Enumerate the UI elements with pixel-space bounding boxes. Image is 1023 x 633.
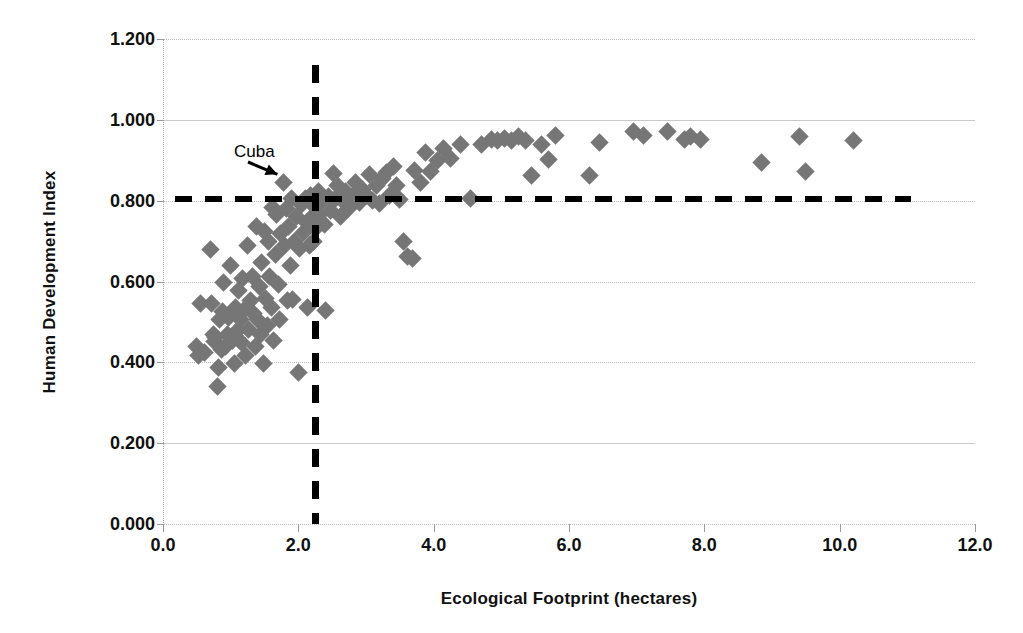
x-tick-label: 6.0 [529,535,609,556]
x-tick-mark [569,524,570,532]
x-tick-label: 8.0 [664,535,744,556]
gridline-y [163,39,975,41]
scatter-chart: Human Development Index Ecological Footp… [0,0,1023,633]
data-point [797,162,815,180]
data-point [580,166,598,184]
y-tick-mark [157,120,164,121]
y-tick-label: 0.600 [69,271,155,292]
x-tick-mark [704,524,705,532]
data-point [238,236,256,254]
data-point [523,166,541,184]
x-tick-mark [840,524,841,532]
data-point [790,128,808,146]
x-tick-label: 12.0 [935,535,1015,556]
x-tick-label: 4.0 [394,535,474,556]
data-point [546,126,564,144]
x-tick-mark [434,524,435,532]
x-tick-mark [298,524,299,532]
data-point [281,256,299,274]
y-tick-mark [157,201,164,202]
x-tick-mark [163,524,164,532]
y-tick-mark [157,282,164,283]
data-point [208,377,226,395]
y-tick-mark [157,443,164,444]
threshold-line-hdi-threshold [175,196,911,202]
data-point [452,135,470,153]
data-point [658,123,676,141]
data-point [590,133,608,151]
y-tick-label: 0.400 [69,352,155,373]
data-point [209,358,227,376]
y-tick-label: 0.800 [69,190,155,211]
x-tick-label: 2.0 [258,535,338,556]
data-point [254,354,272,372]
y-tick-label: 1.200 [69,29,155,50]
threshold-line-footprint-threshold [312,65,319,524]
data-point [539,150,557,168]
x-axis-title: Ecological Footprint (hectares) [163,589,975,609]
y-tick-mark [157,39,164,40]
data-point [753,153,771,171]
x-tick-label: 0.0 [123,535,203,556]
data-point [221,256,239,274]
y-tick-label: 1.000 [69,109,155,130]
data-point [201,241,219,259]
gridline-y [163,362,975,364]
data-point [394,232,412,250]
annotation-arrow-icon [234,148,291,188]
data-point [844,132,862,150]
y-tick-label: 0.000 [69,514,155,535]
y-tick-label: 0.200 [69,433,155,454]
y-axis-title: Human Development Index [40,82,60,482]
x-tick-mark [975,524,976,532]
gridline-y [163,443,975,444]
data-point [289,363,307,381]
gridline-y [163,120,975,121]
x-tick-label: 10.0 [800,535,880,556]
y-tick-mark [157,362,164,363]
